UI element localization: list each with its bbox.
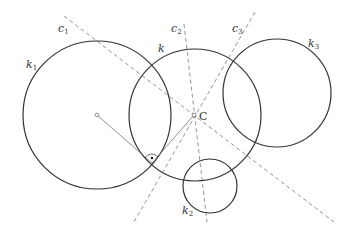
label-k3: k3 (308, 37, 319, 51)
label-k1: k1 (26, 58, 37, 72)
point-C (192, 113, 196, 117)
tangent-segment (152, 115, 194, 163)
circle-k3 (223, 39, 331, 147)
radius-k1 (97, 115, 152, 163)
radical-center-diagram: c1c2c3k1kk3k2C (0, 0, 350, 236)
label-k: k (158, 42, 165, 55)
label-point-C: C (199, 110, 207, 123)
label-c3: c3 (232, 22, 243, 36)
label-c1: c1 (58, 22, 69, 36)
label-c2: c2 (171, 22, 182, 36)
center-k1-point (95, 113, 99, 117)
right-angle-dot (151, 157, 153, 159)
circle-k2 (183, 159, 237, 213)
